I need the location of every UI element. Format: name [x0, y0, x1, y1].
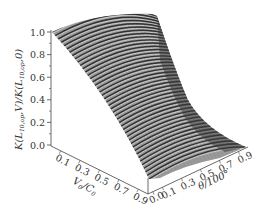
z-tick-label: 0.2 [30, 117, 45, 128]
z-tick-label: 1.0 [30, 27, 45, 38]
x-tick-label: 0.9 [131, 190, 149, 207]
x-tick-label: 0.1 [54, 152, 72, 169]
z-tick-label: 0.6 [30, 72, 45, 83]
x-tick-label: 0.7 [112, 181, 130, 198]
z-tick-label: 0.4 [30, 94, 45, 105]
z-tick-label: 0.0 [30, 140, 45, 151]
z-tick-label: 0.8 [30, 49, 45, 60]
z-axis-title: K(L10,op,V)/K(L10,op,0) [13, 49, 26, 151]
z-axis: 0.00.20.40.60.81.0 [30, 27, 51, 151]
surface-chart: 0.00.20.40.60.81.0 0.10.30.50.70.9 0.00.… [0, 0, 271, 217]
surface-mesh [52, 11, 246, 181]
x-axis: 0.10.30.50.70.9 [51, 146, 150, 207]
